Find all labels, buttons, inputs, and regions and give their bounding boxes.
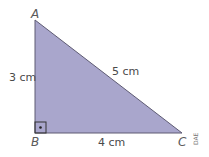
side-ab-label: 3 cm [9,71,36,84]
right-angle-dot [39,126,42,129]
side-ac-label: 5 cm [112,65,139,78]
vertex-a-label: A [30,7,39,21]
vertex-c-label: C [178,135,187,149]
vertex-b-label: B [31,135,39,149]
credit-label: DAE [192,132,199,145]
triangle-abc [35,20,182,133]
side-bc-label: 4 cm [98,136,125,149]
right-triangle-diagram: A B C 3 cm 5 cm 4 cm DAE [0,0,209,157]
